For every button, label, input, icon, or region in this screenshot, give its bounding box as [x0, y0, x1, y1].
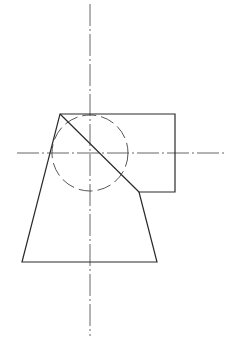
- technical-drawing: [0, 0, 232, 351]
- part-outline: [22, 114, 175, 262]
